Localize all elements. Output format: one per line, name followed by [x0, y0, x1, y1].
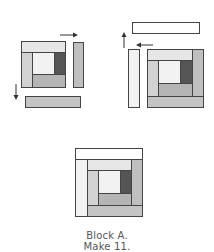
step1-bottom-strip	[25, 96, 81, 108]
finished-right-strip	[131, 159, 143, 206]
step2-top-strip	[132, 22, 200, 34]
arrow-down-icon	[12, 84, 20, 102]
step1-dark-square	[54, 52, 66, 75]
finished-bottom-strip	[87, 205, 143, 217]
step2-right-strip	[192, 49, 204, 97]
step2-left-strip	[128, 49, 140, 108]
step1-bottom-mid-strip	[32, 74, 66, 88]
step2-partial-block	[147, 49, 204, 108]
step1-center-square	[32, 52, 55, 75]
arrow-left-icon	[135, 41, 155, 49]
arrow-right-icon	[60, 32, 80, 40]
finished-center-square	[98, 170, 121, 194]
step2-dark-square	[180, 60, 193, 84]
finished-dark-square	[120, 170, 132, 194]
arrow-up-icon	[120, 31, 128, 49]
step2-center-square	[158, 60, 181, 84]
step2-bottom-mid-strip	[158, 83, 193, 97]
step1-right-strip	[73, 42, 84, 88]
caption-block-name: Block A.	[0, 230, 214, 241]
step2-bottom-strip	[147, 96, 204, 108]
finished-block	[75, 148, 143, 217]
step1-partial-block	[21, 41, 66, 88]
caption-quantity: Make 11.	[0, 241, 214, 252]
